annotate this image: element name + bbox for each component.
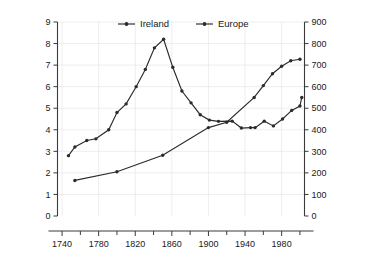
svg-text:500: 500 [312,103,327,113]
svg-text:1860: 1860 [162,239,182,249]
svg-text:1740: 1740 [52,239,72,249]
svg-text:Europe: Europe [218,18,249,29]
svg-text:5: 5 [45,103,50,113]
svg-text:800: 800 [312,39,327,49]
svg-text:Ireland: Ireland [140,18,169,29]
svg-text:2: 2 [45,168,50,178]
svg-text:4: 4 [45,125,50,135]
svg-text:1980: 1980 [272,239,292,249]
svg-text:1900: 1900 [198,239,218,249]
svg-text:0: 0 [312,211,317,221]
svg-text:7: 7 [45,60,50,70]
svg-text:6: 6 [45,82,50,92]
svg-text:600: 600 [312,82,327,92]
svg-text:3: 3 [45,147,50,157]
svg-text:0: 0 [45,211,50,221]
svg-text:200: 200 [312,168,327,178]
svg-text:300: 300 [312,147,327,157]
svg-text:8: 8 [45,39,50,49]
svg-text:700: 700 [312,60,327,70]
svg-text:9: 9 [45,17,50,27]
svg-text:900: 900 [312,17,327,27]
chart-figure: Population of Ireland (millions) Populat… [0,0,382,258]
line-chart-plot: 0123456789010020030040050060070080090017… [0,0,382,258]
svg-text:1: 1 [45,190,50,200]
svg-text:1820: 1820 [125,239,145,249]
svg-text:100: 100 [312,190,327,200]
svg-text:1940: 1940 [235,239,255,249]
svg-text:1780: 1780 [89,239,109,249]
svg-text:400: 400 [312,125,327,135]
